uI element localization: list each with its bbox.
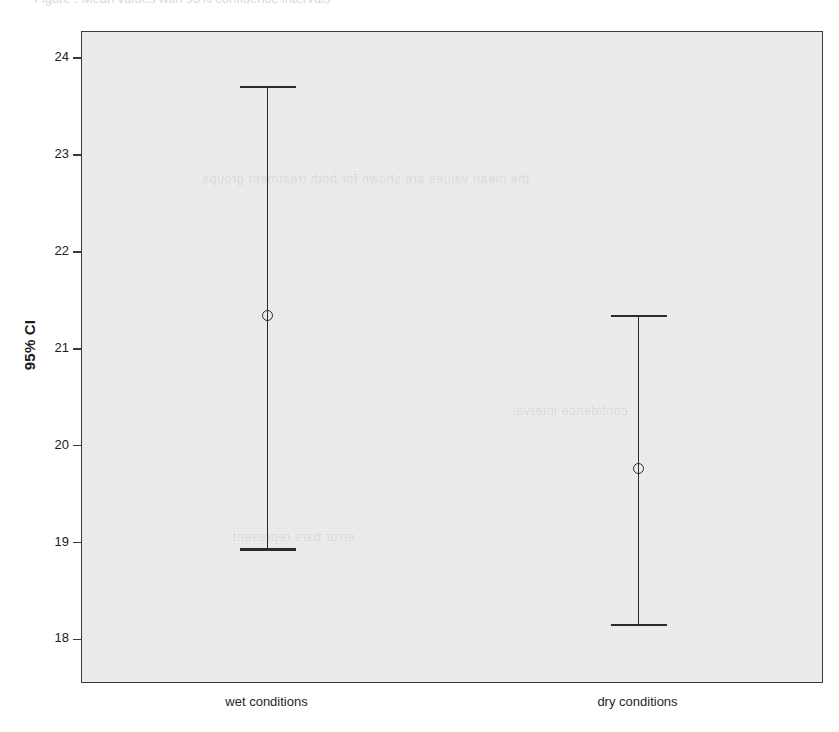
y-axis-tick-label: 20 bbox=[55, 437, 69, 452]
y-axis-tick-label: 23 bbox=[55, 146, 69, 161]
y-axis-tick-mark bbox=[73, 251, 81, 253]
y-axis-tick-mark bbox=[73, 639, 81, 641]
y-axis-tick-mark bbox=[73, 348, 81, 350]
y-axis-tick-label: 21 bbox=[55, 340, 69, 355]
page-top-text-sliver: Figure . Mean values with 95% confidence… bbox=[0, 0, 839, 14]
x-axis-category-label: dry conditions bbox=[597, 694, 677, 709]
paper-grain-texture bbox=[82, 32, 822, 682]
ghost-text-line: confidence interval bbox=[512, 404, 628, 418]
y-axis-tick-label: 24 bbox=[55, 49, 69, 64]
y-axis-tick-mark bbox=[73, 154, 81, 156]
scanned-page: Figure . Mean values with 95% confidence… bbox=[0, 0, 839, 732]
cropped-caption-text: Figure . Mean values with 95% confidence… bbox=[0, 0, 839, 6]
error-bar-lower-cap bbox=[240, 548, 296, 550]
error-bar-upper-cap bbox=[240, 86, 296, 88]
x-axis-category-label: wet conditions bbox=[225, 694, 307, 709]
y-axis-tick-mark bbox=[73, 57, 81, 59]
ghost-text-line: error bars represent bbox=[232, 530, 354, 544]
error-bar-upper-cap bbox=[611, 315, 667, 317]
y-axis-title: 95% CI bbox=[21, 320, 38, 370]
plot-area: the mean values are shown for both treat… bbox=[81, 31, 823, 683]
mean-marker bbox=[262, 310, 273, 321]
y-axis-tick-label: 18 bbox=[55, 630, 69, 645]
y-axis-tick-mark bbox=[73, 542, 81, 544]
ghost-text-line: the mean values are shown for both treat… bbox=[202, 172, 529, 186]
y-axis-tick-mark bbox=[73, 445, 81, 447]
error-bar-lower-cap bbox=[611, 624, 667, 626]
y-axis-tick-label: 19 bbox=[55, 534, 69, 549]
y-axis-tick-label: 22 bbox=[55, 243, 69, 258]
mean-marker bbox=[633, 463, 644, 474]
